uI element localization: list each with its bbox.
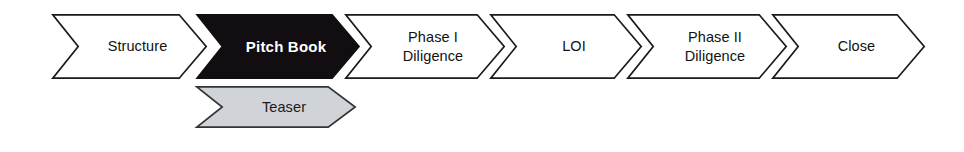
process-step-pitch-book[interactable]: Pitch Book xyxy=(196,14,360,79)
chevron-shape-structure xyxy=(52,14,207,79)
process-step-phase-ii-diligence[interactable]: Phase II Diligence xyxy=(627,14,787,79)
chevron-shape-teaser xyxy=(196,86,356,128)
process-step-loi[interactable]: LOI xyxy=(490,14,642,79)
process-step-structure[interactable]: Structure xyxy=(52,14,207,79)
chevron-shape-loi xyxy=(490,14,642,79)
process-step-teaser[interactable]: Teaser xyxy=(196,86,356,128)
process-step-phase-i-diligence[interactable]: Phase I Diligence xyxy=(345,14,505,79)
chevron-shape-pitch-book xyxy=(196,14,360,79)
process-step-close[interactable]: Close xyxy=(772,14,925,79)
process-flow-diagram: StructurePitch BookPhase I DiligenceLOIP… xyxy=(0,0,964,152)
chevron-shape-phase-ii-diligence xyxy=(627,14,787,79)
chevron-shape-close xyxy=(772,14,925,79)
chevron-shape-phase-i-diligence xyxy=(345,14,505,79)
